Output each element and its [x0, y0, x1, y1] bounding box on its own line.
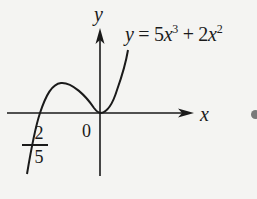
eq-var2: x: [208, 23, 217, 45]
eq-equals: =: [134, 23, 154, 45]
eq-var1: x: [164, 23, 173, 45]
eq-plus: +: [178, 23, 198, 45]
eq-exp2: 2: [217, 22, 223, 36]
fraction-denominator: 5: [22, 148, 48, 166]
equation-label: y = 5x3 + 2x2: [125, 24, 222, 44]
edge-dot: [251, 110, 257, 119]
fraction-bar-minus-sign: [22, 144, 48, 146]
fraction-numerator: 2: [22, 124, 48, 142]
eq-coef1: 5: [154, 23, 164, 45]
y-axis-label: y: [94, 4, 103, 24]
eq-lhs: y: [125, 23, 134, 45]
root-fraction-label: 2 5: [22, 124, 48, 166]
x-axis-label: x: [200, 104, 209, 124]
origin-label: 0: [82, 122, 91, 140]
eq-coef2: 2: [198, 23, 208, 45]
